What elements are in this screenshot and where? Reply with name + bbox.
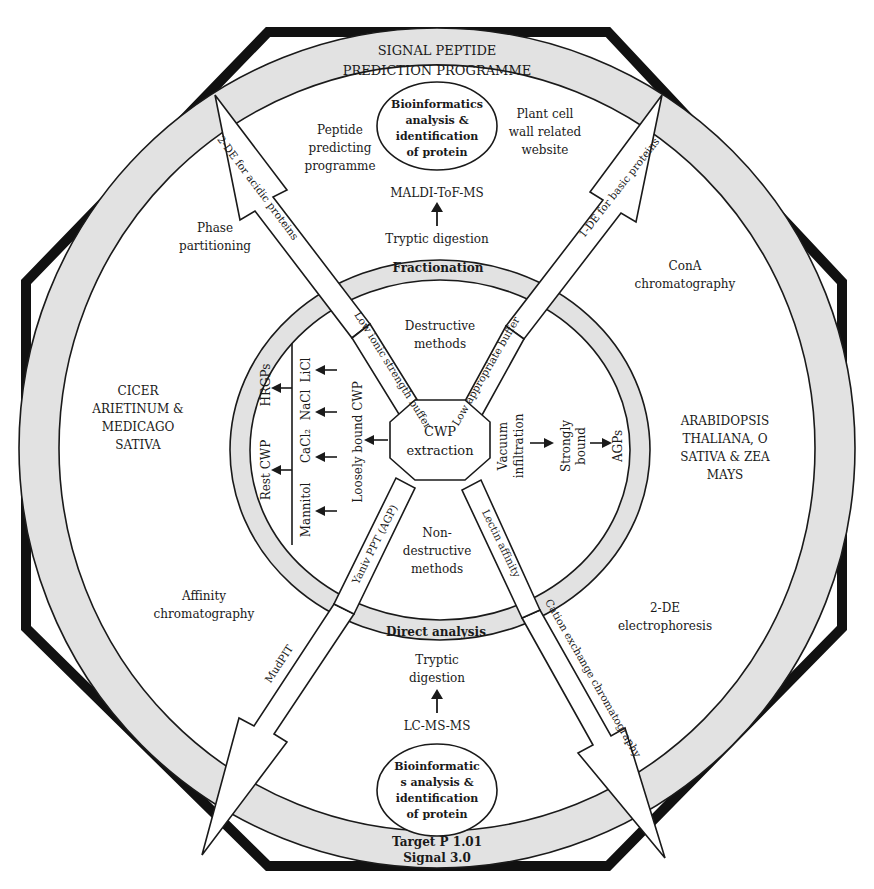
top-bioinfo-line-2: analysis & [405, 114, 468, 127]
bottom-bioinfo-line-4: of protein [407, 808, 468, 821]
top-bioinfo-line-3: identification [396, 130, 479, 143]
cicer-line-2: ARIETINUM & [91, 402, 184, 416]
arrow-label-yaniv: Yaniv PPT (AGP) [349, 502, 400, 586]
center-label-2: extraction [406, 443, 474, 458]
electrophoresis-line-1: 2-DE [650, 601, 680, 615]
maldi-label: MALDI-ToF-MS [390, 186, 484, 200]
plant-cell-line-2: wall related [509, 125, 582, 139]
cwp-extraction-box [390, 400, 490, 480]
bottom-tryptic-line-1: Tryptic [415, 653, 459, 667]
top-tryptic-label: Tryptic digestion [385, 232, 489, 246]
cwp-proteomics-diagram: CWP extraction SIGNAL PEPTIDE PREDICTION… [0, 0, 874, 889]
top-bioinfo-line-1: Bioinformatics [391, 98, 483, 111]
nondestructive-line-3: methods [411, 562, 463, 576]
vacuum-line-2: infiltration [512, 413, 526, 478]
electrophoresis-line-2: electrophoresis [618, 619, 712, 633]
plant-cell-line-1: Plant cell [517, 107, 574, 121]
outer-ring-bottom-line-2: Signal 3.0 [403, 851, 471, 865]
nacl-label: NaCl [299, 390, 313, 421]
cicer-line-4: SATIVA [115, 438, 161, 452]
nondestructive-line-1: Non- [422, 526, 452, 540]
licl-label: LiCl [299, 357, 313, 382]
bottom-bioinformatics-ellipse [377, 744, 497, 836]
cicer-line-1: CICER [118, 384, 160, 398]
mannitol-label: Mannitol [299, 483, 313, 538]
agps-label: AGPs [611, 430, 625, 463]
affinity-line-1: Affinity [181, 589, 226, 603]
destructive-line-2: methods [414, 337, 466, 351]
peptide-line-3: programme [304, 159, 375, 173]
outer-ring-top-line-1: SIGNAL PEPTIDE [378, 43, 497, 58]
nondestructive-line-2: destructive [403, 544, 472, 558]
up-arrow-icon [431, 689, 443, 713]
bottom-bioinfo-line-3: identification [396, 792, 479, 805]
inner-ring-top-label: Fractionation [392, 261, 483, 275]
peptide-line-2: predicting [309, 141, 372, 155]
lcms-label: LC-MS-MS [404, 719, 471, 733]
arabidopsis-line-1: ARABIDOPSIS [680, 414, 770, 428]
affinity-line-2: chromatography [154, 607, 255, 621]
outer-ring-bottom-line-1: Target P 1.01 [392, 835, 482, 849]
strongly-line-2: bound [574, 427, 588, 465]
arrow-label-basic: 1-DE for basic proteins [576, 135, 661, 239]
phase-line-1: Phase [197, 221, 233, 235]
arabidopsis-line-4: MAYS [707, 468, 744, 482]
left-arrows [271, 365, 388, 516]
cona-line-1: ConA [669, 259, 702, 273]
inner-ring-bottom-label: Direct analysis [386, 625, 486, 639]
phase-line-2: partitioning [179, 239, 251, 253]
vacuum-line-1: Vacuum [496, 421, 510, 471]
up-arrow-icon [431, 202, 443, 226]
top-bioinfo-line-4: of protein [407, 146, 468, 159]
hrgps-label: HRGPs [259, 364, 273, 407]
bottom-bioinfo-line-1: Bioinformatic [394, 760, 480, 773]
rest-cwp-label: Rest CWP [259, 440, 273, 501]
strongly-line-1: Strongly [559, 420, 573, 472]
cicer-line-3: MEDICAGO [102, 420, 175, 434]
outer-ring-top-line-2: PREDICTION PROGRAMME [343, 63, 531, 78]
destructive-line-1: Destructive [405, 319, 475, 333]
arabidopsis-line-3: SATIVA & ZEA [680, 450, 770, 464]
cacl2-label: CaCl₂ [299, 429, 313, 463]
arabidopsis-line-2: THALIANA, O [682, 432, 767, 446]
peptide-line-1: Peptide [317, 123, 363, 137]
bottom-bioinfo-line-2: s analysis & [400, 776, 473, 789]
bottom-tryptic-line-2: digestion [409, 671, 465, 685]
plant-cell-line-3: website [522, 143, 569, 157]
cona-line-2: chromatography [635, 277, 736, 291]
loosely-bound-label: Loosely bound CWP [351, 381, 365, 503]
